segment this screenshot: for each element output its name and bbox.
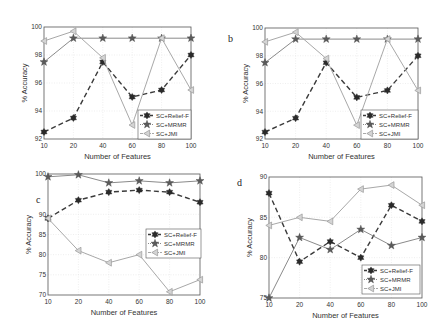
legend-entry-label: SC+MRMR xyxy=(380,277,411,283)
relief-f-marker-icon xyxy=(75,197,81,204)
legend-entry-label: SC+MRMR xyxy=(379,122,410,128)
y-axis-label: % Accuracy xyxy=(241,64,250,103)
series-line-sc-mrmr xyxy=(44,38,191,62)
legend-entry-label: SC+Relief-F xyxy=(164,232,197,238)
legend-entry-label: SC+Relief-F xyxy=(380,268,413,274)
mrmr-marker-icon xyxy=(105,179,113,187)
x-axis-label: Number of Features xyxy=(84,152,151,161)
series-line-sc-relief-f xyxy=(269,193,422,262)
y-tick-label: 70 xyxy=(39,291,47,298)
jmi-marker-icon xyxy=(70,28,76,35)
y-axis-label: % Accuracy xyxy=(245,218,254,257)
x-tick-label: 20 xyxy=(292,142,300,149)
x-tick-label: 80 xyxy=(388,301,396,308)
series-line-sc-jmi xyxy=(269,185,422,225)
legend-entry-label: SC+Relief-F xyxy=(156,113,189,119)
x-tick-label: 60 xyxy=(129,142,137,149)
relief-f-marker-icon xyxy=(136,187,142,194)
y-tick-label: 96 xyxy=(256,80,264,87)
x-tick-label: 80 xyxy=(166,298,174,305)
x-tick-label: 10 xyxy=(44,298,52,305)
y-tick-label: 100 xyxy=(252,24,263,31)
legend: SC+Relief-FSC+MRMRSC+JMI xyxy=(138,110,191,139)
relief-f-marker-icon xyxy=(106,189,112,196)
relief-f-marker-icon xyxy=(296,258,302,265)
legend-entry-label: SC+JMI xyxy=(164,250,186,256)
y-tick-label: 98 xyxy=(35,51,43,58)
x-tick-label: 10 xyxy=(265,301,273,308)
relief-f-marker-icon xyxy=(197,199,203,206)
y-tick-label: 94 xyxy=(35,107,43,114)
y-tick-label: 85 xyxy=(39,231,47,238)
jmi-marker-icon xyxy=(292,29,298,36)
y-tick-label: 80 xyxy=(39,251,47,258)
x-tick-label: 100 xyxy=(417,301,428,308)
relief-f-marker-icon xyxy=(266,190,272,197)
legend-entry-label: SC+JMI xyxy=(380,286,402,292)
chart-panel-d: 102040608010075808590Number of Features%… xyxy=(237,173,428,320)
x-tick-label: 80 xyxy=(158,142,166,149)
y-axis-label: % Accuracy xyxy=(24,215,33,254)
legend: SC+Relief-FSC+MRMRSC+JMI xyxy=(361,110,418,139)
mrmr-marker-icon xyxy=(166,179,174,187)
x-tick-label: 40 xyxy=(99,142,107,149)
chart-panel-b: 102040608010092949698100Number of Featur… xyxy=(228,24,424,161)
x-tick-label: 60 xyxy=(353,142,361,149)
series-line-sc-mrmr xyxy=(48,175,200,183)
x-tick-label: 40 xyxy=(323,142,331,149)
panel-label: d xyxy=(237,177,242,188)
jmi-marker-icon xyxy=(354,122,360,129)
x-tick-label: 20 xyxy=(70,142,78,149)
y-tick-label: 85 xyxy=(260,214,268,221)
chart-panel-a: 102040608010092949698100Number of Featur… xyxy=(20,23,197,161)
y-tick-label: 80 xyxy=(260,254,268,261)
relief-f-marker-icon xyxy=(419,218,425,225)
legend: SC+Relief-FSC+MRMRSC+JMI xyxy=(362,265,420,294)
x-tick-label: 40 xyxy=(327,301,335,308)
x-tick-label: 100 xyxy=(413,142,424,149)
mrmr-marker-icon xyxy=(326,245,334,253)
jmi-marker-icon xyxy=(296,214,302,221)
series-line-sc-mrmr xyxy=(265,39,418,63)
relief-f-marker-icon xyxy=(358,254,364,261)
legend-entry-label: SC+MRMR xyxy=(164,241,195,247)
y-tick-label: 96 xyxy=(35,79,43,86)
x-tick-label: 20 xyxy=(296,301,304,308)
y-tick-label: 98 xyxy=(256,52,264,59)
relief-f-marker-icon xyxy=(188,51,194,58)
x-axis-label: Number of Features xyxy=(308,152,375,161)
relief-f-marker-icon xyxy=(158,86,164,93)
jmi-marker-icon xyxy=(327,218,333,225)
legend-entry-label: SC+Relief-F xyxy=(379,113,412,119)
x-tick-label: 10 xyxy=(40,142,48,149)
y-tick-label: 92 xyxy=(35,135,43,142)
legend-entry-label: SC+JMI xyxy=(156,131,178,137)
relief-f-marker-icon xyxy=(166,189,172,196)
y-tick-label: 90 xyxy=(260,173,268,180)
y-tick-label: 94 xyxy=(256,108,264,115)
y-axis-label: % Accuracy xyxy=(20,63,29,102)
x-axis-label: Number of Features xyxy=(91,308,158,317)
figure-canvas: 102040608010092949698100Number of Featur… xyxy=(0,0,445,335)
x-axis-label: Number of Features xyxy=(312,311,379,320)
relief-f-marker-icon xyxy=(70,114,76,121)
x-tick-label: 100 xyxy=(186,142,197,149)
x-tick-label: 60 xyxy=(357,301,365,308)
y-tick-label: 100 xyxy=(31,23,42,30)
panel-label: c xyxy=(36,194,41,205)
relief-f-marker-icon xyxy=(327,238,333,245)
x-tick-label: 10 xyxy=(261,142,269,149)
mrmr-marker-icon xyxy=(135,177,143,185)
jmi-marker-icon xyxy=(106,259,112,266)
y-tick-label: 92 xyxy=(256,135,264,142)
legend: SC+Relief-FSC+MRMRSC+JMI xyxy=(146,229,201,258)
legend-entry-label: SC+JMI xyxy=(379,131,401,137)
x-tick-label: 80 xyxy=(384,142,392,149)
x-tick-label: 40 xyxy=(105,298,113,305)
x-tick-label: 60 xyxy=(136,298,144,305)
legend-entry-label: SC+MRMR xyxy=(156,122,187,128)
chart-panel-c: 10204060801007075808590100Number of Feat… xyxy=(24,170,206,317)
x-tick-label: 20 xyxy=(75,298,83,305)
panel-label: b xyxy=(228,33,233,44)
x-tick-label: 100 xyxy=(195,298,206,305)
